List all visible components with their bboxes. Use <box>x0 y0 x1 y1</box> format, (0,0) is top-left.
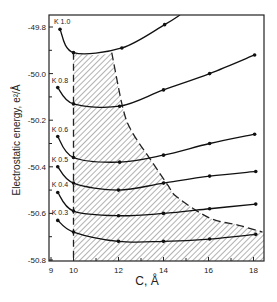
y-tick-label: -50.4 <box>28 163 47 172</box>
data-point <box>72 230 76 234</box>
x-tick-label: 16 <box>204 266 213 275</box>
data-point <box>254 233 258 237</box>
x-tick-label: 18 <box>249 266 258 275</box>
y-tick-label: -50.6 <box>28 209 47 218</box>
x-tick-label: 10 <box>69 266 78 275</box>
data-point <box>253 132 257 136</box>
hatched-region <box>74 53 265 261</box>
data-point <box>254 170 258 174</box>
y-tick-label: -50.2 <box>28 116 47 125</box>
data-point <box>208 237 212 241</box>
series-label: K 0.4 <box>52 181 68 188</box>
data-point <box>72 102 76 106</box>
data-point <box>254 202 258 206</box>
chart: K 1.0K 0.8K 0.6K 0.5K 0.4K 0.3 910121416… <box>0 0 277 302</box>
data-point <box>163 23 167 27</box>
data-point <box>208 72 212 76</box>
y-tick-label: -50.8 <box>28 256 47 265</box>
data-point <box>72 156 76 160</box>
y-axis-title: Electrostatic energy, e²/Å <box>10 84 22 195</box>
hatched-area <box>74 53 265 261</box>
series-label: K 0.3 <box>52 209 68 216</box>
data-point <box>72 181 76 185</box>
data-point <box>72 51 76 55</box>
data-point <box>162 88 166 92</box>
series-label: K 0.6 <box>52 126 68 133</box>
data-point <box>162 240 166 244</box>
x-axis-title: C, Å <box>135 273 158 288</box>
data-point <box>56 165 60 169</box>
data-point <box>56 135 60 139</box>
data-point <box>118 104 122 108</box>
series-label: K 1.0 <box>54 18 70 25</box>
data-point <box>117 214 121 218</box>
data-point <box>117 240 121 244</box>
data-point <box>120 46 124 50</box>
x-tick-label: 12 <box>114 266 123 275</box>
data-point <box>208 142 212 146</box>
series-line <box>60 15 180 54</box>
data-point <box>162 181 166 185</box>
data-point <box>162 153 166 157</box>
data-point <box>208 174 212 178</box>
x-tick-label: 14 <box>159 266 168 275</box>
data-point <box>118 160 122 164</box>
data-point <box>72 209 76 213</box>
y-tick-label: -50.0 <box>28 70 47 79</box>
data-point <box>162 212 166 216</box>
data-point <box>117 188 121 192</box>
data-point <box>253 53 257 57</box>
y-tick-label: -49.8 <box>28 23 47 32</box>
data-point <box>58 28 62 32</box>
data-point <box>208 207 212 211</box>
data-point <box>56 219 60 223</box>
series-label: K 0.8 <box>52 77 68 84</box>
x-tick-label: 9 <box>49 266 54 275</box>
series-label: K 0.5 <box>52 156 68 163</box>
data-point <box>56 86 60 90</box>
data-point <box>56 191 60 195</box>
